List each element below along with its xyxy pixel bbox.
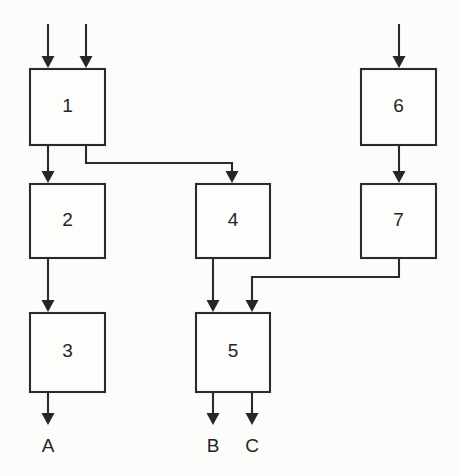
connector-box7-to-box5 xyxy=(246,258,400,312)
arrow-head-icon xyxy=(207,413,220,425)
arrow-head-icon xyxy=(226,171,239,183)
io-labels-layer: ABC xyxy=(42,435,259,456)
arrow-head-icon xyxy=(393,56,406,68)
flow-diagram-svg: 1234567 ABC xyxy=(0,0,461,476)
process-box-label: 7 xyxy=(393,209,404,230)
arrow-head-icon xyxy=(42,171,55,183)
connector-box1-to-box4 xyxy=(86,145,239,183)
connector-box2-to-box3 xyxy=(42,258,55,312)
connector-input-1-right xyxy=(80,24,93,68)
connector-box5-to-b xyxy=(207,392,220,425)
arrow-head-icon xyxy=(393,171,406,183)
process-box-3[interactable]: 3 xyxy=(30,313,105,392)
connector-box3-to-a xyxy=(42,392,55,425)
arrow-head-icon xyxy=(246,413,259,425)
process-box-7[interactable]: 7 xyxy=(361,184,436,258)
process-box-label: 3 xyxy=(62,340,73,361)
connector-box5-to-c xyxy=(246,392,259,425)
arrow-head-icon xyxy=(207,300,220,312)
io-label-output-c: C xyxy=(245,435,259,456)
connector-input-1-left xyxy=(42,24,55,68)
arrow-head-icon xyxy=(42,413,55,425)
io-label-output-a: A xyxy=(42,435,55,456)
process-box-label: 4 xyxy=(228,209,239,230)
arrow-head-icon xyxy=(42,56,55,68)
connector-input-6 xyxy=(393,24,406,68)
arrow-head-icon xyxy=(246,300,259,312)
connector-box1-to-box2 xyxy=(42,145,55,183)
arrow-head-icon xyxy=(42,300,55,312)
boxes-layer: 1234567 xyxy=(30,69,436,392)
process-box-6[interactable]: 6 xyxy=(361,69,436,145)
process-box-1[interactable]: 1 xyxy=(30,69,105,145)
process-box-5[interactable]: 5 xyxy=(196,313,270,392)
connector-box6-to-box7 xyxy=(393,145,406,183)
process-box-label: 1 xyxy=(62,95,73,116)
process-box-label: 2 xyxy=(62,209,73,230)
connector-box4-to-box5 xyxy=(207,258,220,312)
process-box-2[interactable]: 2 xyxy=(30,184,105,258)
process-box-label: 6 xyxy=(393,95,404,116)
arrow-head-icon xyxy=(80,56,93,68)
process-box-label: 5 xyxy=(228,340,239,361)
io-label-output-b: B xyxy=(207,435,220,456)
connector-line xyxy=(86,145,232,181)
connector-line xyxy=(252,258,399,310)
process-box-4[interactable]: 4 xyxy=(196,184,270,258)
block-diagram-canvas: 1234567 ABC xyxy=(0,0,461,476)
